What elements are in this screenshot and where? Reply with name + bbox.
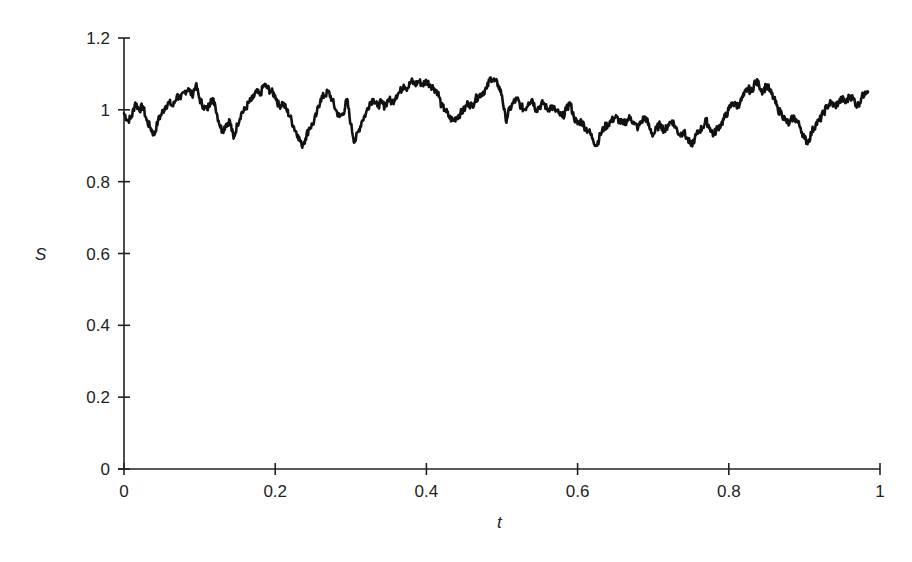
y-tick-label: 0.2 [86,388,110,407]
x-tick-label: 1 [875,482,884,501]
x-axis-label: t [497,513,503,532]
y-axis: 00.20.40.60.811.2 [86,29,130,479]
series-line-s-of-t [124,78,868,148]
line-chart: 00.20.40.60.811.2 00.20.40.60.81 S t [0,0,912,562]
y-tick-label: 0.4 [86,316,110,335]
x-tick-label: 0.8 [717,482,741,501]
y-tick-label: 1.2 [86,29,110,48]
x-tick-label: 0.6 [566,482,590,501]
y-tick-label: 0 [101,460,110,479]
y-axis-label: S [35,245,47,264]
x-tick-label: 0 [119,482,128,501]
x-tick-label: 0.2 [263,482,287,501]
y-tick-label: 0.8 [86,173,110,192]
x-tick-label: 0.4 [415,482,439,501]
x-axis: 00.20.40.60.81 [118,463,885,501]
y-tick-label: 0.6 [86,245,110,264]
y-tick-label: 1 [101,101,110,120]
